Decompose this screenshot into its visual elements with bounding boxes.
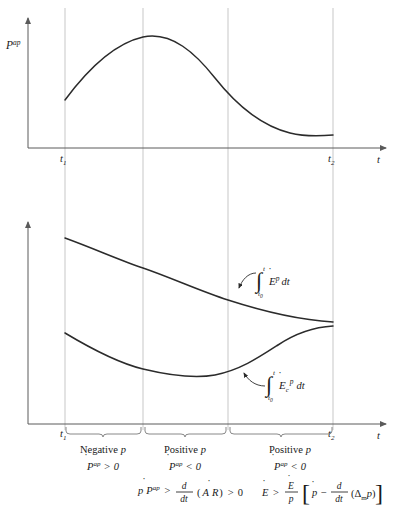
top-tick-t2: t2 [328,153,335,167]
bottom-tick-t1-sub: 1 [63,434,67,442]
region-1-sign-var: p [120,444,126,455]
formula-left-frac-den: dt [180,494,188,504]
region-2-condition-sup: ap [176,460,184,468]
lower-integral-lower-limit-sub: 0 [270,397,273,403]
formula-right-frac2-den: dt [335,494,343,504]
formula-right: E ̇ > E ̇ p [ p ̇ − d dt (Δmp) ] [261,475,383,506]
formula-right-term-p-dot: ̇ [312,481,314,483]
formula-left-lhs-dot: ̇ [143,478,145,480]
lower-integrand-dot: ̇ [279,372,281,374]
lower-annotation-leader [244,373,265,386]
region-2-condition-rel: < [186,461,193,472]
formula-left-rhs: 0 [238,487,243,498]
top-curve-pap [65,36,333,136]
lower-curve-annotation: ∫ t t0 Ecpdt ̇ [264,369,306,403]
region-3-sign-word: Positive [269,444,303,455]
region-2-condition: Pap<0 [168,460,202,472]
formula-left: pPap> ̇ d dt (AR)>0 ̇ [137,478,243,504]
region-3-condition: Pap<0 [273,460,307,472]
brace-region-3 [230,427,332,437]
formula-left-paren-group: (AR)>0 [197,487,243,499]
lower-integral-upper-limit: t [273,369,276,377]
gridlines [65,8,333,430]
bottom-curve-upper [65,238,333,322]
upper-curve-annotation: ∫ t t0 Epdt ̇ [254,265,291,299]
region-1-condition-rel: > [104,461,111,472]
formula-left-lhs-sup: ap [153,484,161,492]
upper-integral-upper-limit: t [263,265,266,273]
top-tick-t1-sub: 1 [63,159,67,167]
top-y-axis-label-sup: ap [13,38,21,47]
region-1-condition-sup: ap [94,460,102,468]
region-1-annotation: Negativep Pap>0 ̇ [80,444,126,472]
top-y-axis-label-base: P [5,39,13,51]
formula-right-bracket-open: [ [302,480,310,506]
formula-right-rel: > [273,487,279,498]
region-3-annotation: Positivep Pap<0 ̇ [269,444,311,472]
bottom-tick-t2: t2 [328,428,335,442]
lower-integrand-sub: c [286,386,290,394]
region-braces [66,427,332,437]
region-2-sign-var: p [200,444,206,455]
bottom-curve-lower [65,326,333,377]
region-1-condition: Pap>0 [86,460,120,472]
scientific-figure-svg: Pap t t1 t2 t t1 t2 [0,0,398,510]
lower-integrand-dt: dt [297,380,306,391]
upper-integral-lower-limit-sub: 0 [260,293,263,299]
formula-right-bracket-close: ] [375,480,383,506]
formula-left-paren-R-dot: ̇ [208,480,210,482]
region-3-condition-sup: ap [281,460,289,468]
region-1-sign-word: Negative [80,444,118,455]
bottom-tick-t2-sub: 2 [331,434,335,442]
region-3-sign-label: Positivep [269,444,311,455]
bottom-panel: t t1 t2 ∫ t t0 Epdt ̇ [28,222,386,442]
formula-left-frac-num: d [182,481,187,491]
region-3-condition-rel: < [291,461,298,472]
lower-integrand-sup: p [289,377,294,386]
bottom-tick-t1: t1 [60,428,66,442]
region-3-condition-rhs: 0 [301,461,307,472]
formula-right-frac2-num: d [337,481,342,491]
region-2-sign-word: Positive [164,444,198,455]
formula-left-rel2: > [228,487,234,498]
formula-right-lhs: E [261,487,269,498]
formula-right-term-p: p [311,487,317,498]
formula-right-frac-num: E [287,481,294,491]
region-2-sign-label: Positivep [164,444,206,455]
brace-region-1 [66,427,141,437]
upper-annotation-leader [239,273,256,288]
formula-right-minus: − [321,487,327,498]
region-3-sign-var: p [305,444,311,455]
formula-left-paren-A: A [202,487,210,498]
region-2-annotation: Positivep Pap<0 ̇ [164,444,206,472]
formula-left-lhs-p: p [137,485,143,496]
lower-integrand: Ecpdt [278,377,306,394]
formula-right-frac-num-dot: ̇ [288,475,290,477]
formula-left-paren-open: ( [197,487,201,499]
region-1-sign-label: Negativep [80,444,126,455]
formula-right-lhs-dot: ̇ [263,480,265,482]
formula-right-frac-den: p [288,494,294,504]
upper-integrand-sup: p [275,274,280,283]
top-panel: Pap t t1 t2 [5,18,386,167]
top-tick-t1: t1 [60,153,66,167]
region-1-condition-rhs: 0 [114,461,120,472]
formula-left-paren-close: ) [219,487,223,499]
region-2-condition-rhs: 0 [196,461,202,472]
top-tick-t2-sub: 2 [331,159,335,167]
top-x-axis-label: t [377,154,381,165]
formula-right-delta-group: (Δmp) [351,488,376,502]
top-y-axis-label: Pap [5,38,21,51]
formula-left-lhs: pPap> [137,484,171,496]
upper-integrand-dot: ̇ [269,268,271,270]
formula-left-paren-R: R [211,487,219,498]
bottom-x-axis-label: t [377,430,381,441]
upper-integrand-dt: dt [281,276,290,287]
brace-region-2 [145,427,226,437]
formula-left-rel1: > [164,485,171,496]
figure-container: Pap t t1 t2 t t1 t2 [0,0,398,510]
upper-integrand: Epdt [268,274,291,287]
